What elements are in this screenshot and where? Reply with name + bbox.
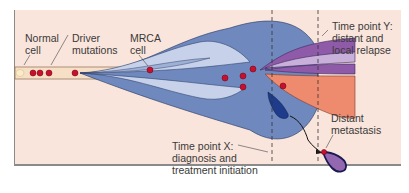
label-normal-cell: Normal cell — [25, 32, 59, 56]
label-time-point-x: Time point X: diagnosis and treatment in… — [172, 140, 258, 176]
mutation-dot — [240, 84, 246, 90]
mutation-dot — [280, 83, 286, 89]
label-mrca-cell: MRCA cell — [130, 32, 161, 56]
normal-cell-icon — [16, 70, 24, 77]
leader-metastasis — [326, 135, 333, 148]
mutation-dot — [37, 70, 43, 76]
mutation-dot — [222, 75, 228, 81]
metastasis-shape — [323, 152, 346, 172]
leader-y — [322, 30, 328, 36]
label-time-point-y: Time point Y: distant and local relapse — [332, 20, 393, 56]
mutation-dot — [30, 70, 36, 76]
mutation-dot — [147, 67, 153, 73]
arrow-head-icon — [316, 149, 322, 154]
label-distant-metastasis: Distant metastasis — [331, 112, 381, 136]
leader-normal — [24, 55, 30, 65]
mutation-dot — [321, 149, 326, 154]
label-driver-mutations: Driver mutations — [72, 32, 118, 56]
mutation-dot — [46, 70, 52, 76]
mutation-dot — [240, 73, 246, 79]
mutation-dot — [72, 70, 78, 76]
mutation-dot — [250, 66, 256, 72]
